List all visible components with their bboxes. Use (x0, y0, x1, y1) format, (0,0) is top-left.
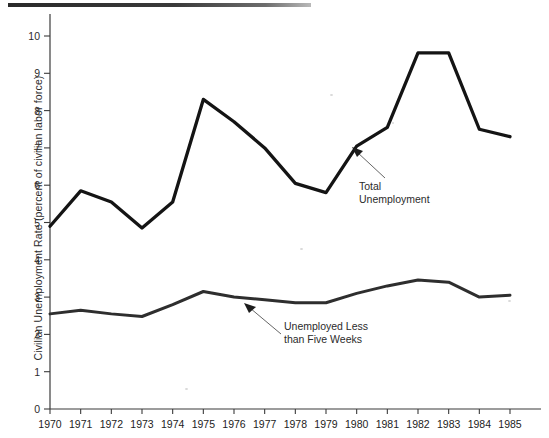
series-line-unemployed-less-than-five-weeks (50, 280, 510, 317)
x-axis-tick-label: 1985 (498, 418, 522, 430)
scan-speck (185, 388, 188, 390)
x-axis-tick-label: 1975 (192, 418, 216, 430)
annotation-line-1: Total (359, 180, 381, 192)
x-axis-tick-label: 1973 (130, 418, 154, 430)
x-axis-tick-label: 1977 (253, 418, 277, 430)
x-axis-tick-label: 1980 (345, 418, 369, 430)
x-axis-tick-label: 1981 (376, 418, 400, 430)
annotation-unemployed-less-than-five-weeks: Unemployed Less than Five Weeks (244, 303, 368, 345)
annotation-leader-line (250, 308, 281, 334)
annotation-line-2: than Five Weeks (284, 333, 362, 345)
y-axis-tick-label: 6 (34, 179, 40, 191)
y-axis-tick-label: 1 (34, 366, 40, 378)
scan-speck (300, 248, 303, 250)
annotation-total-unemployment: Total Unemployment (352, 147, 430, 205)
x-axis-tick-labels: 1970197119721973197419751976197719781979… (38, 418, 522, 430)
x-axis-tick-label: 1984 (468, 418, 492, 430)
x-axis-tick-label: 1982 (406, 418, 430, 430)
x-axis-tick-label: 1978 (284, 418, 308, 430)
y-axis-tick-label: 9 (34, 67, 40, 79)
x-axis-tick-label: 1976 (222, 418, 246, 430)
x-axis-tick-label: 1983 (437, 418, 461, 430)
series-line-total-unemployment (50, 53, 510, 228)
y-axis-ticks (44, 36, 50, 409)
y-axis-tick-label: 4 (34, 254, 40, 266)
chart-figure: Civilian Unemployment Rate (percent of c… (0, 0, 549, 438)
x-axis-tick-label: 1970 (38, 418, 62, 430)
y-axis-tick-labels: 012345678910 (28, 30, 40, 415)
annotation-line-2: Unemployment (359, 193, 430, 205)
x-axis-ticks (50, 409, 510, 414)
x-axis-tick-label: 1972 (100, 418, 124, 430)
y-axis-tick-label: 8 (34, 105, 40, 117)
scan-speck (330, 94, 333, 96)
x-axis-tick-label: 1974 (161, 418, 185, 430)
scan-speck (392, 122, 394, 124)
y-axis-tick-label: 5 (34, 217, 40, 229)
y-axis-tick-label: 3 (34, 291, 40, 303)
y-axis-tick-label: 7 (34, 142, 40, 154)
x-axis-tick-label: 1971 (69, 418, 93, 430)
line-chart-plot: 012345678910 197019711972197319741975197… (0, 0, 549, 438)
y-axis-tick-label: 10 (28, 30, 40, 42)
annotation-line-1: Unemployed Less (284, 320, 368, 332)
scan-speck (508, 300, 511, 302)
y-axis-tick-label: 2 (34, 328, 40, 340)
y-axis-tick-label: 0 (34, 403, 40, 415)
x-axis-tick-label: 1979 (314, 418, 338, 430)
annotation-leader-line (357, 152, 385, 178)
